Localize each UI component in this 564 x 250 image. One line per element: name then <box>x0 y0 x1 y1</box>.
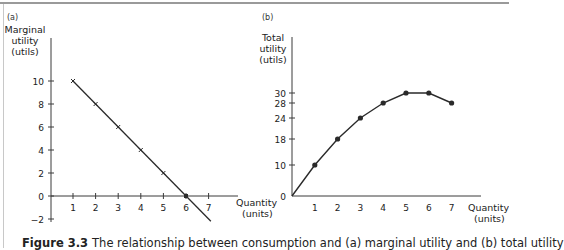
data-point-marker <box>449 100 454 105</box>
data-point-x-marker <box>116 125 120 129</box>
x-tick-label: 3 <box>358 203 364 213</box>
data-point-marker <box>358 115 363 120</box>
panel-b-xlabel-line2: (units) <box>474 213 505 224</box>
panel-b-ylabel-line3: (utils) <box>259 54 286 65</box>
data-point-x-marker <box>94 102 98 106</box>
panel-b-ylabel-line1: Total <box>261 32 284 43</box>
y-tick-label: 0 <box>280 192 286 202</box>
x-tick-label: 4 <box>138 203 144 213</box>
y-tick-label: 10 <box>33 77 45 87</box>
data-point-marker <box>335 136 340 141</box>
panel-a-xlabel-line1: Quantity <box>236 197 277 208</box>
panel-a-ticks: −202468101234567 <box>31 77 212 225</box>
x-tick-label: 6 <box>183 203 189 213</box>
y-tick-label: 8 <box>38 100 44 110</box>
y-tick-label: 0 <box>38 192 44 202</box>
y-tick-label: −2 <box>31 215 44 225</box>
panel-a-ylabel-line3: (utils) <box>11 46 38 57</box>
data-point-marker <box>426 90 431 95</box>
y-tick-label: 24 <box>275 114 287 124</box>
x-tick-label: 2 <box>335 203 341 213</box>
data-point-x-marker <box>139 148 143 152</box>
panel-b-ylabel-line2: utility <box>259 43 286 54</box>
y-tick-label: 2 <box>38 169 44 179</box>
x-tick-label: 7 <box>449 203 455 213</box>
panel-a-tag: (a) <box>7 13 18 22</box>
figure-caption-text: The relationship between consumption and… <box>92 236 563 250</box>
data-point-marker <box>381 100 386 105</box>
panel-b-series <box>292 90 454 196</box>
x-tick-label: 1 <box>312 203 318 213</box>
y-tick-label: 6 <box>38 123 44 133</box>
x-tick-label: 5 <box>403 203 409 213</box>
y-tick-label: 4 <box>38 146 44 156</box>
figure-caption: Figure 3.3The relationship between consu… <box>22 236 564 250</box>
total-utility-line <box>292 93 452 196</box>
data-point-x-marker <box>71 79 75 83</box>
panel-a-axes <box>51 38 238 222</box>
panel-a-ylabel-line2: utility <box>11 35 38 46</box>
data-point-marker <box>184 194 188 198</box>
panel-b-total-utility-chart: (b) Total utility (utils) 01018242830123… <box>259 13 509 224</box>
x-tick-label: 3 <box>115 203 121 213</box>
panel-b-axes <box>292 37 481 196</box>
x-tick-label: 7 <box>206 203 212 213</box>
x-tick-label: 5 <box>161 203 167 213</box>
x-tick-label: 6 <box>426 203 432 213</box>
data-point-x-marker <box>161 171 165 175</box>
data-point-marker <box>312 162 317 167</box>
data-point-marker <box>403 90 408 95</box>
y-tick-label: 18 <box>275 135 287 145</box>
y-tick-label: 28 <box>275 99 287 109</box>
figure-number: Figure 3.3 <box>22 236 88 250</box>
x-tick-label: 4 <box>380 203 386 213</box>
panel-a-ylabel-line1: Marginal <box>5 24 46 35</box>
panel-b-tag: (b) <box>262 13 273 22</box>
panel-a-xlabel-line2: (units) <box>242 208 273 219</box>
panel-a-series <box>71 79 211 221</box>
x-tick-label: 2 <box>93 203 99 213</box>
panel-b-ticks: 010182428301234567 <box>275 89 455 214</box>
panel-a-marginal-utility-chart: (a) Marginal utility (utils) −2024681012… <box>5 13 278 225</box>
x-tick-label: 1 <box>70 203 76 213</box>
panel-b-xlabel-line1: Quantity <box>468 202 509 213</box>
y-tick-label: 30 <box>275 89 287 99</box>
y-tick-label: 10 <box>275 161 287 171</box>
